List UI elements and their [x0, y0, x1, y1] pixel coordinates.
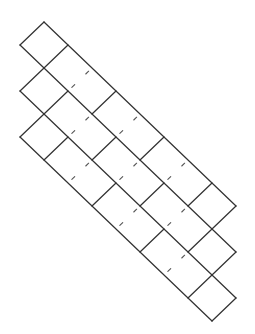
strip-top-cut-edge [140, 137, 164, 160]
strip-bottom-fold-mark [168, 269, 171, 272]
strip-bottom-cut-edge [44, 137, 68, 160]
strip-middle-cut-edge [92, 137, 116, 160]
strip-top-fold-mark [86, 71, 89, 74]
strip-bottom-fold-mark [120, 223, 123, 226]
strip-middle-fold-mark [86, 117, 89, 120]
strip-middle-cut-edge [140, 183, 164, 206]
strip-top-fold-mark [168, 177, 171, 180]
strip-bottom-cut-edge [212, 298, 236, 321]
strip-top-fold-mark [182, 163, 185, 166]
strip-middle-fold-mark [168, 223, 171, 226]
strip-bottom-fold-mark [182, 255, 185, 258]
strip-bottom-fold-mark [86, 163, 89, 166]
strip-middle-cut-edge [44, 91, 68, 114]
strip-middle-fold-mark [182, 209, 185, 212]
strip-middle-cut-edge [20, 68, 44, 91]
strip-bottom-cut-edge [20, 114, 44, 137]
strip-top-fold-mark [120, 131, 123, 134]
strip-net-diagram [0, 0, 255, 334]
strip-bottom-cut-edge [140, 229, 164, 252]
strip-long-edge [20, 91, 236, 298]
strip-bottom-cut-edge [188, 275, 212, 298]
strip-long-edge [20, 45, 236, 252]
strip-bottom-cut-edge [92, 183, 116, 206]
strip-cross-edges [20, 22, 236, 321]
strip-bottom-fold-mark [134, 209, 137, 212]
strip-bottom-fold-mark [72, 177, 75, 180]
strip-top-cut-edge [188, 183, 212, 206]
strip-middle-fold-mark [72, 131, 75, 134]
strip-top-cut-edge [20, 22, 44, 45]
strip-top-fold-mark [72, 85, 75, 88]
strip-long-edges [20, 22, 236, 321]
strip-middle-fold-mark [134, 163, 137, 166]
strip-middle-fold-mark [120, 177, 123, 180]
strip-middle-cut-edge [188, 229, 212, 252]
strip-top-cut-edge [44, 45, 68, 68]
strip-top-cut-edge [212, 206, 236, 229]
strip-top-fold-mark [134, 117, 137, 120]
strip-top-cut-edge [92, 91, 116, 114]
strip-middle-cut-edge [212, 252, 236, 275]
